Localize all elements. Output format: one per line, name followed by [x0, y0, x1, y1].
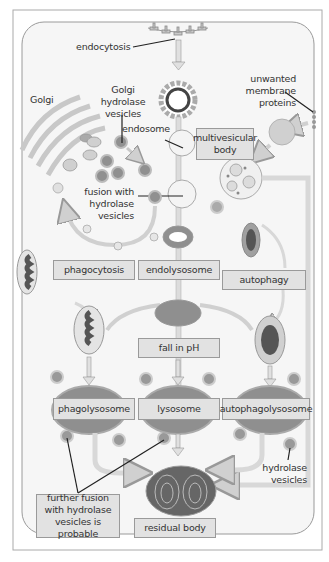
fusion-endosome-icon: [168, 180, 196, 208]
lysosome-precursor-icon: [155, 300, 201, 326]
box-lysosome: lysosome: [138, 398, 220, 420]
box-fall-in-ph: fall in pH: [138, 338, 220, 358]
box-phagolysosome: phagolysosome: [53, 398, 135, 420]
endolysosome-icon: [163, 226, 193, 248]
residual-body-icon: [146, 466, 216, 516]
box-residual-body: residual body: [134, 518, 216, 538]
diagram-canvas: endocytosis Golgi Golgi hydrolase vesicl…: [0, 0, 329, 562]
label-fusion-with-hydrolase-vesicles: fusion with hydrolase vesicles: [80, 186, 134, 222]
membrane-vesicle-icon: [269, 119, 295, 145]
label-endocytosis: endocytosis: [76, 41, 130, 53]
box-autophagy: autophagy: [222, 270, 306, 290]
box-phagocytosis: phagocytosis: [53, 260, 135, 280]
autophagosome-icon: [242, 223, 260, 257]
coated-vesicle-icon: [161, 83, 195, 117]
label-unwanted-membrane-proteins: unwanted membrane proteins: [240, 73, 296, 109]
box-endolysosome: endolysosome: [138, 260, 220, 280]
box-multivesicular-body: multivesicular body: [196, 128, 254, 160]
label-golgi: Golgi: [30, 94, 53, 106]
phagocytosis-particle-icon: [17, 250, 37, 294]
label-golgi-hydrolase-vesicles: Golgi hydrolase vesicles: [88, 84, 158, 120]
box-autophagolysosome: autophagolysosome: [222, 398, 310, 420]
label-endosome: endosome: [122, 123, 170, 135]
autophagosome-mature-icon: [255, 316, 285, 364]
box-further-fusion: further fusion with hydrolase vesicles i…: [36, 494, 120, 538]
label-hydrolase-vesicles: hydrolase vesicles: [262, 462, 307, 486]
multivesicular-body-icon: [220, 157, 262, 199]
phagosome-icon: [74, 306, 104, 354]
